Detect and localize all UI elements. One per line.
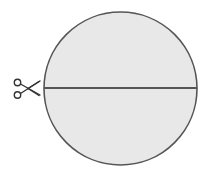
diagram-canvas xyxy=(0,0,210,176)
scissors-icon xyxy=(14,79,40,98)
